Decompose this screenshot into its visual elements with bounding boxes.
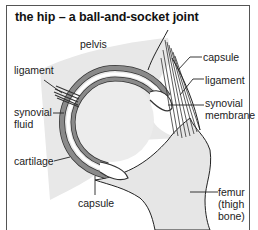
label-synovial-membrane-line1: synovial	[205, 97, 243, 109]
label-femur-line3: bone)	[218, 210, 245, 222]
label-cartilage: cartilage	[14, 155, 54, 167]
label-synovial-fluid-line1: synovial	[14, 106, 52, 118]
label-ligament-left: ligament	[14, 64, 54, 76]
label-synovial-fluid-line2: fluid	[14, 118, 33, 130]
label-femur-line1: femur	[218, 186, 245, 198]
label-pelvis: pelvis	[80, 38, 107, 50]
label-femur-line2: (thigh	[218, 198, 244, 210]
label-capsule-bottom: capsule	[78, 197, 114, 209]
label-synovial-membrane-line2: membrane	[205, 109, 255, 121]
label-ligament-right: ligament	[205, 74, 245, 86]
label-capsule-right: capsule	[203, 51, 239, 63]
